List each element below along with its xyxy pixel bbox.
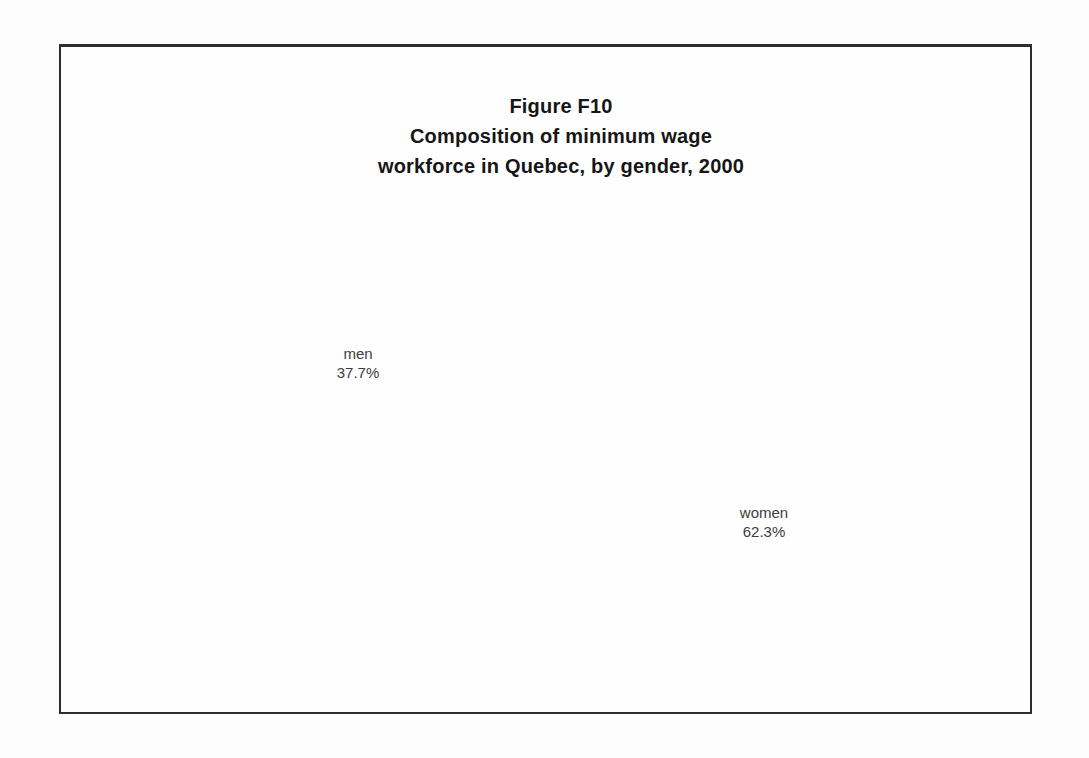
scanned-page: Figure F10 Composition of minimum wage w… <box>0 0 1089 758</box>
pie-label-men: men 37.7% <box>278 344 438 382</box>
figure-title-line-2: Composition of minimum wage <box>211 121 911 151</box>
figure-title-line-3: workforce in Quebec, by gender, 2000 <box>211 151 911 181</box>
pie-label-women-value: 62.3% <box>684 522 844 541</box>
pie-label-men-value: 37.7% <box>278 363 438 382</box>
pie-label-men-name: men <box>278 344 438 363</box>
pie-label-women-name: women <box>684 503 844 522</box>
figure-title-line-1: Figure F10 <box>211 91 911 121</box>
figure-title: Figure F10 Composition of minimum wage w… <box>211 91 911 181</box>
pie-label-women: women 62.3% <box>684 503 844 541</box>
